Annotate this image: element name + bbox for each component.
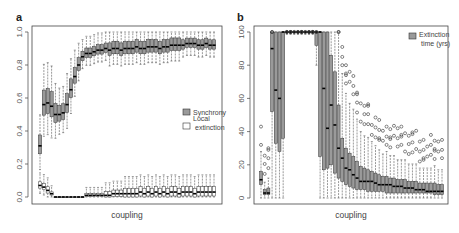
box [143, 41, 146, 54]
outlier-point [441, 148, 444, 151]
box [337, 105, 340, 178]
box [166, 188, 169, 197]
outlier-point [426, 145, 429, 148]
box [315, 32, 318, 45]
box [378, 175, 381, 192]
panel-b-legend: Extinction time (yrs) [409, 31, 450, 48]
y-tick-label: 20 [237, 160, 246, 169]
box [381, 176, 384, 191]
box [112, 41, 115, 54]
box [62, 104, 65, 120]
outlier-point [363, 113, 366, 116]
box [322, 32, 325, 170]
box [178, 38, 181, 51]
legend-label-time-yrs: time (yrs) [421, 40, 450, 48]
outlier-point [344, 64, 347, 67]
box [367, 170, 370, 192]
outlier-point [433, 157, 436, 160]
box [407, 181, 410, 193]
y-tick-label: 40 [237, 127, 246, 136]
box [359, 166, 362, 189]
outlier-point [407, 153, 410, 156]
box [50, 92, 53, 117]
outlier-point [385, 135, 388, 138]
outlier-point [263, 162, 266, 165]
outlier-point [260, 125, 263, 128]
box [433, 183, 436, 195]
box [139, 41, 142, 54]
outlier-point [378, 118, 381, 121]
outlier-point [400, 125, 403, 128]
box [356, 161, 359, 189]
legend-label-extinction: Extinction [419, 31, 449, 38]
box [330, 55, 333, 165]
legend-label-extinction: extinction [195, 124, 225, 131]
box [38, 135, 41, 154]
box [135, 188, 138, 197]
panel-a-label: a [16, 11, 23, 23]
box [151, 40, 154, 53]
y-tick-label: 0.6 [15, 92, 24, 104]
box [166, 40, 169, 53]
outlier-point [374, 116, 377, 119]
outlier-point [429, 153, 432, 156]
box [104, 192, 107, 197]
outlier-point [404, 132, 407, 135]
outlier-point [404, 150, 407, 153]
outlier-point [363, 104, 366, 107]
outlier-point [381, 129, 384, 132]
box [326, 32, 329, 168]
box [65, 94, 68, 113]
box [127, 188, 130, 197]
panel-b-boxplots [260, 31, 444, 199]
outlier-point [352, 74, 355, 77]
outlier-point [429, 133, 432, 136]
box [131, 41, 134, 54]
outlier-point [344, 82, 347, 85]
box [389, 178, 392, 193]
outlier-point [389, 128, 392, 131]
outlier-point [396, 137, 399, 140]
outlier-point [400, 143, 403, 146]
outlier-point [411, 151, 414, 154]
outlier-point [378, 128, 381, 131]
panel-a-x-axis-title: coupling [111, 210, 143, 220]
outlier-point [374, 126, 377, 129]
box [437, 185, 440, 195]
outlier-point [359, 102, 362, 105]
box [411, 181, 414, 193]
box [363, 168, 366, 190]
panel-b-extinction-time: b 020406080100 Extinction time (yrs) cou… [237, 11, 450, 220]
outlier-point [367, 123, 370, 126]
outlier-point [407, 134, 410, 137]
y-tick-label: 0.0 [15, 191, 24, 203]
outlier-point [363, 123, 366, 126]
outlier-point [415, 148, 418, 151]
box [158, 41, 161, 54]
box [178, 188, 181, 197]
panel-b-y-axis: 020406080100 [237, 25, 250, 200]
legend-label-local: Local [193, 115, 210, 122]
outlier-point [352, 93, 355, 96]
outlier-point [374, 136, 377, 139]
outlier-point [359, 120, 362, 123]
box [108, 43, 111, 56]
outlier-point [396, 145, 399, 148]
outlier-point [422, 138, 425, 141]
box [42, 90, 45, 115]
box [116, 41, 119, 54]
box [333, 72, 336, 173]
outlier-point [341, 45, 344, 48]
box [263, 190, 266, 195]
outlier-point [411, 141, 414, 144]
box [441, 185, 444, 195]
box [154, 40, 157, 53]
outlier-point [341, 64, 344, 67]
outlier-point [267, 157, 270, 160]
box [260, 171, 263, 184]
outlier-point [348, 70, 351, 73]
outlier-point [441, 157, 444, 160]
box [319, 32, 322, 157]
outlier-point [381, 139, 384, 142]
box [123, 41, 126, 54]
